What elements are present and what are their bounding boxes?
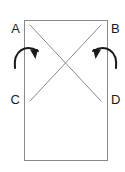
geometry-figure: A B C D bbox=[0, 0, 125, 172]
left-arrowhead-icon bbox=[30, 49, 38, 59]
vertex-label-b: B bbox=[111, 21, 120, 36]
figure-canvas: A B C D bbox=[0, 0, 125, 172]
rectangle-shape bbox=[25, 21, 108, 161]
vertex-label-a: A bbox=[11, 21, 20, 36]
vertex-label-c: C bbox=[11, 92, 20, 107]
vertex-label-d: D bbox=[111, 92, 120, 107]
right-arrowhead-icon bbox=[93, 49, 101, 59]
